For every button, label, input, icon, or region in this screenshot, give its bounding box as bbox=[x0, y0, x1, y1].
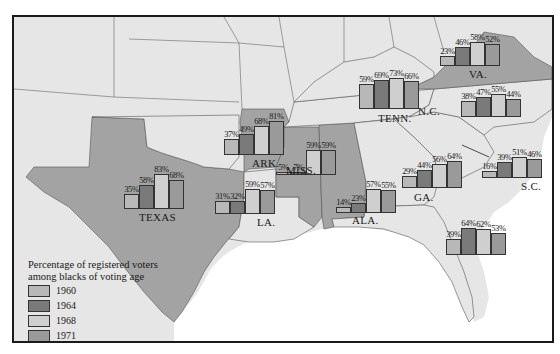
bar-value-label: 68% bbox=[169, 170, 184, 180]
bar-value-label: 39% bbox=[446, 229, 461, 239]
bar-value-label: 37% bbox=[224, 129, 239, 139]
bar-ark-1964 bbox=[239, 134, 254, 155]
bar-value-label: 35% bbox=[124, 184, 139, 194]
legend-label: 1964 bbox=[56, 300, 76, 311]
bar-la-1968 bbox=[245, 189, 260, 214]
bar-nc-1964 bbox=[476, 97, 491, 117]
bar-sc-1960 bbox=[482, 171, 497, 178]
swatch-1964 bbox=[28, 300, 50, 312]
legend-item-1968: 1968 bbox=[28, 313, 218, 328]
state-label-tenn: TENN. bbox=[378, 112, 412, 124]
legend-label: 1971 bbox=[56, 330, 76, 341]
bar-ga-1971 bbox=[447, 161, 462, 188]
swatch-1971 bbox=[28, 330, 50, 342]
bar-value-label: 29% bbox=[402, 166, 417, 176]
legend-item-1960: 1960 bbox=[28, 283, 218, 298]
bar-ga-1960 bbox=[402, 176, 417, 188]
bar-ala-1964 bbox=[351, 203, 366, 213]
legend-item-1964: 1964 bbox=[28, 298, 218, 313]
bar-value-label: 73% bbox=[389, 68, 404, 78]
bar-value-label: 23% bbox=[440, 46, 455, 56]
bar-value-label: 62% bbox=[476, 219, 491, 229]
bar-value-label: 44% bbox=[417, 160, 432, 170]
legend-title-line2: among blacks of voting age bbox=[28, 271, 218, 283]
bar-value-label: 57% bbox=[366, 179, 381, 189]
bar-value-label: 68% bbox=[254, 116, 269, 126]
bar-value-label: 64% bbox=[447, 151, 462, 161]
bar-value-label: 44% bbox=[506, 89, 521, 99]
bar-value-label: 38% bbox=[461, 91, 476, 101]
bar-la-1971 bbox=[260, 190, 275, 214]
bar-value-label: 51% bbox=[512, 147, 527, 157]
bar-value-label: 66% bbox=[404, 71, 419, 81]
bar-fla-1960 bbox=[446, 239, 461, 255]
bar-ala-1968 bbox=[366, 189, 381, 213]
bar-va-1971 bbox=[485, 44, 500, 66]
state-label-va: VA. bbox=[469, 68, 487, 80]
bar-value-label: 32% bbox=[230, 191, 245, 201]
bar-ark-1968 bbox=[254, 126, 269, 155]
bar-va-1968 bbox=[470, 42, 485, 66]
bar-value-label: 59% bbox=[245, 179, 260, 189]
state-label-ark: ARK. bbox=[252, 157, 279, 169]
bar-va-1960 bbox=[440, 56, 455, 66]
bar-ark-1960 bbox=[224, 139, 239, 155]
bar-value-label: 47% bbox=[476, 87, 491, 97]
state-label-nc: N.C. bbox=[418, 105, 440, 117]
bar-value-label: 49% bbox=[239, 124, 254, 134]
bar-ga-1968 bbox=[432, 164, 447, 188]
state-label-sc: S.C. bbox=[521, 180, 541, 192]
bar-texas-1960 bbox=[124, 194, 139, 209]
state-label-ala: ALA. bbox=[352, 214, 379, 226]
bar-ala-1971 bbox=[381, 190, 396, 213]
bar-value-label: 83% bbox=[154, 164, 169, 174]
bar-value-label: 55% bbox=[381, 180, 396, 190]
bar-fla-1968 bbox=[476, 229, 491, 255]
legend-label: 1968 bbox=[56, 315, 76, 326]
bar-texas-1968 bbox=[154, 174, 169, 209]
bar-fla-1964 bbox=[461, 228, 476, 255]
map-frame: 35%58%83%68%TEXAS37%49%68%81%ARK.31%32%5… bbox=[12, 15, 554, 343]
state-label-miss: MISS. bbox=[286, 164, 316, 176]
bar-tenn-1971 bbox=[404, 81, 419, 109]
bar-tenn-1968 bbox=[389, 78, 404, 109]
bar-value-label: 64% bbox=[461, 218, 476, 228]
bar-la-1964 bbox=[230, 201, 245, 214]
state-label-texas: TEXAS bbox=[139, 211, 176, 223]
bar-value-label: 53% bbox=[491, 223, 506, 233]
bar-ga-1964 bbox=[417, 170, 432, 188]
bar-value-label: 31% bbox=[215, 191, 230, 201]
bar-la-1960 bbox=[215, 201, 230, 214]
bar-miss-1971 bbox=[321, 150, 336, 175]
bar-value-label: 69% bbox=[374, 70, 389, 80]
bar-value-label: 46% bbox=[527, 149, 542, 159]
bar-value-label: 59% bbox=[321, 140, 336, 150]
bar-nc-1971 bbox=[506, 99, 521, 117]
swatch-1968 bbox=[28, 315, 50, 327]
legend-title-line1: Percentage of registered voters bbox=[28, 259, 218, 271]
bar-sc-1971 bbox=[527, 159, 542, 178]
state-label-ga: GA. bbox=[414, 191, 434, 203]
bar-value-label: 14% bbox=[336, 197, 351, 207]
bar-sc-1964 bbox=[497, 162, 512, 178]
bar-sc-1968 bbox=[512, 157, 527, 178]
bar-value-label: 52% bbox=[485, 34, 500, 44]
bar-value-label: 46% bbox=[455, 37, 470, 47]
bar-value-label: 23% bbox=[351, 193, 366, 203]
bar-tenn-1960 bbox=[359, 84, 374, 109]
legend-label: 1960 bbox=[56, 285, 76, 296]
state-label-la: LA. bbox=[257, 216, 275, 228]
bar-value-label: 39% bbox=[497, 152, 512, 162]
bar-nc-1968 bbox=[491, 94, 506, 117]
bar-value-label: 59% bbox=[359, 74, 374, 84]
bar-tenn-1964 bbox=[374, 80, 389, 109]
bar-texas-1964 bbox=[139, 185, 154, 209]
bar-value-label: 16% bbox=[482, 161, 497, 171]
legend-item-1971: 1971 bbox=[28, 328, 218, 343]
swatch-1960 bbox=[28, 285, 50, 297]
bar-nc-1960 bbox=[461, 101, 476, 117]
bar-value-label: 56% bbox=[432, 154, 447, 164]
bar-value-label: 58% bbox=[470, 32, 485, 42]
bar-va-1964 bbox=[455, 47, 470, 66]
bar-ark-1971 bbox=[269, 121, 284, 155]
